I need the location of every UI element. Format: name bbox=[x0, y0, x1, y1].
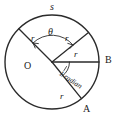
radius-line-upper-right bbox=[52, 33, 89, 63]
radius-label-to-a: r bbox=[60, 92, 64, 101]
center-point-label-o: O bbox=[24, 61, 31, 71]
arc-length-label-s: s bbox=[50, 2, 54, 12]
angle-label-theta: θ bbox=[48, 27, 53, 37]
point-label-b: B bbox=[105, 55, 112, 65]
circle-radian-diagram: s θ r r r r O B A 1 radian bbox=[0, 0, 120, 118]
radius-label-to-b: r bbox=[74, 50, 78, 59]
radius-label-upper-right: r bbox=[65, 34, 69, 43]
point-label-a: A bbox=[83, 104, 90, 114]
radius-label-upper-left: r bbox=[31, 34, 35, 43]
